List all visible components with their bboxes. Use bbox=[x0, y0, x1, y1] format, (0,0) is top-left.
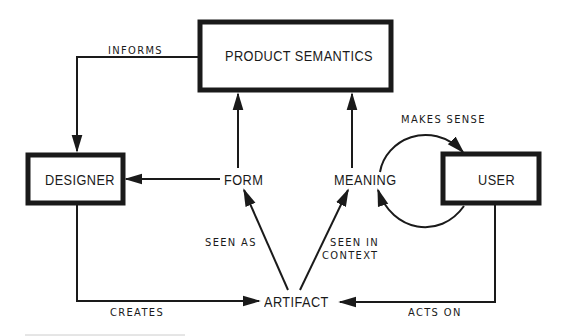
seen-in-label: SEEN IN bbox=[330, 236, 379, 249]
creates-label: CREATES bbox=[110, 306, 164, 319]
acts-on-label: ACTS ON bbox=[408, 306, 462, 319]
makes-sense-label: MAKES SENSE bbox=[401, 113, 486, 126]
seen-as-label: SEEN AS bbox=[205, 236, 257, 249]
designer-label: DESIGNER bbox=[45, 171, 115, 188]
meaning-label: MEANING bbox=[334, 171, 396, 188]
informs-label: INFORMS bbox=[108, 44, 163, 57]
user-label: USER bbox=[478, 171, 515, 188]
product-semantics-label: PRODUCT SEMANTICS bbox=[225, 47, 373, 64]
form-label: FORM bbox=[224, 171, 263, 188]
informs-arrow bbox=[77, 57, 198, 151]
creates-arrow bbox=[77, 205, 259, 301]
context-label: CONTEXT bbox=[322, 249, 379, 262]
makes-sense-lower-arc bbox=[378, 190, 464, 227]
artifact-label: ARTIFACT bbox=[264, 293, 329, 310]
